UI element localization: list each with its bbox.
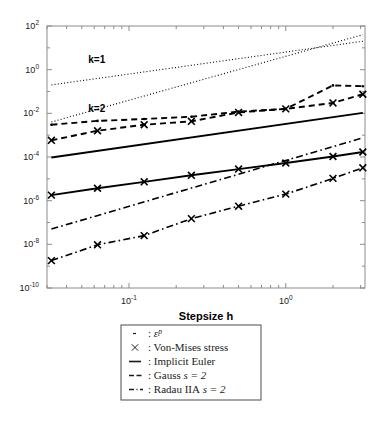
legend-item-label: : Implicit Euler: [148, 355, 216, 367]
data-point-marker: [143, 118, 146, 121]
data-point-marker: [50, 123, 53, 126]
slope-annotation-k2: k=2: [88, 103, 105, 114]
loglog-convergence-chart: k=1k=2 10210010-210-410-610-810-1010-110…: [0, 0, 386, 422]
figure-container: k=1k=2 10210010-210-410-610-810-1010-110…: [0, 0, 386, 422]
legend: : εp: Von-Mises stress: Implicit Euler: …: [121, 325, 261, 400]
legend-item-label: : Gauss s = 2: [148, 369, 207, 381]
slope-annotation-k1: k=1: [88, 54, 105, 65]
x-axis-title: Stepsize h: [179, 310, 234, 322]
legend-item-label: : Von-Mises stress: [148, 341, 228, 353]
data-point-marker: [362, 85, 365, 88]
legend-item-label: : Radau IIA s = 2: [148, 383, 226, 395]
data-point-marker: [332, 84, 335, 87]
data-point-marker: [96, 120, 99, 123]
data-point-marker: [190, 115, 193, 118]
